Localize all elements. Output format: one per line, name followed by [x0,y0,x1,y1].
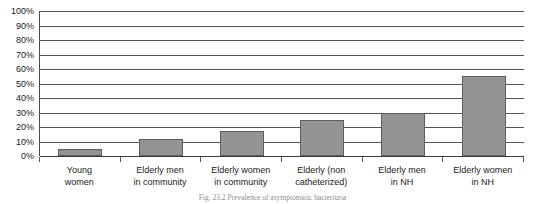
x-axis-category-line: women [40,177,119,189]
plot-area [39,11,524,156]
x-axis-category-label: Elderly womenin NH [442,163,523,191]
bar[interactable] [300,120,344,156]
y-tick-label: 0% [21,152,34,161]
x-tick [442,157,443,162]
bar-slot [443,11,524,156]
figure-caption: Fig. 23.2 Prevalence of asymptomatic bac… [0,193,545,202]
x-tick [523,157,524,162]
x-axis-category-line: in NH [443,177,522,189]
bars-layer [40,11,524,156]
bar-slot [121,11,202,156]
x-tick [362,157,363,162]
x-axis-category-label: Elderly (noncatheterized) [281,163,362,191]
y-tick-label: 60% [16,65,34,74]
x-axis-category-line: Elderly men [121,165,200,177]
y-tick-label: 90% [16,21,34,30]
x-axis-category-line: Young [40,165,119,177]
x-axis-category-label: Elderly menin community [120,163,201,191]
bar-slot [282,11,363,156]
x-axis-category-line: Elderly women [201,165,280,177]
x-axis-category-line: catheterized) [282,177,361,189]
x-axis-ticks [39,157,523,162]
bar[interactable] [139,139,183,156]
y-tick-label: 40% [16,94,34,103]
y-tick-label: 10% [16,137,34,146]
x-tick [200,157,201,162]
bar-slot [201,11,282,156]
x-axis-category-line: in community [121,177,200,189]
x-axis-category-line: Elderly men [363,165,442,177]
bar-slot [363,11,444,156]
y-tick-label: 20% [16,123,34,132]
x-axis-category-label: Elderly menin NH [362,163,443,191]
bar[interactable] [58,149,102,156]
bar-slot [40,11,121,156]
y-tick-label: 80% [16,36,34,45]
x-axis-category-label: Youngwomen [39,163,120,191]
x-tick [39,157,40,162]
bar[interactable] [220,131,264,156]
y-axis: 0%10%20%30%40%50%60%70%80%90%100% [0,0,38,165]
x-axis-category-line: in community [201,177,280,189]
x-axis-category-line: Elderly (non [282,165,361,177]
x-tick [120,157,121,162]
y-tick-label: 70% [16,50,34,59]
bar[interactable] [462,76,506,156]
y-tick-label: 100% [11,7,34,16]
bar-chart-figure: 0%10%20%30%40%50%60%70%80%90%100% Youngw… [0,0,545,204]
x-axis-category-line: Elderly women [443,165,522,177]
y-tick-label: 30% [16,108,34,117]
x-tick [281,157,282,162]
y-tick-label: 50% [16,79,34,88]
x-axis-labels: YoungwomenElderly menin communityElderly… [39,163,523,191]
x-axis-category-label: Elderly womenin community [200,163,281,191]
x-axis-category-line: in NH [363,177,442,189]
bar[interactable] [381,113,425,157]
